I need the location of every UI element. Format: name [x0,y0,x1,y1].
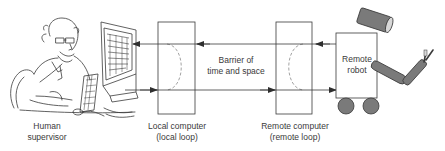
human-label-line1: Human [27,121,66,132]
robot-label-line2: robot [342,65,372,76]
local-computer-box [158,22,195,114]
remote-computer-label: Remote computer (remote loop) [261,121,329,143]
human-supervisor-icon [11,18,135,117]
remote-computer-box [276,22,312,114]
local-computer-label: Local computer (local loop) [148,121,206,143]
barrier-line2: time and space [207,66,265,77]
remote-label-line2: (remote loop) [261,132,329,143]
local-label-line2: (local loop) [148,132,206,143]
remote-label-line1: Remote computer [261,121,329,132]
computer-monitor-icon [80,22,138,112]
robot-label-line1: Remote [342,54,372,65]
barrier-line1: Barrier of [207,55,265,66]
human-label-line2: supervisor [27,132,66,143]
barrier-label: Barrier of time and space [207,55,265,77]
remote-robot-label: Remote robot [342,54,372,76]
human-supervisor-label: Human supervisor [27,121,66,143]
local-label-line1: Local computer [148,121,206,132]
